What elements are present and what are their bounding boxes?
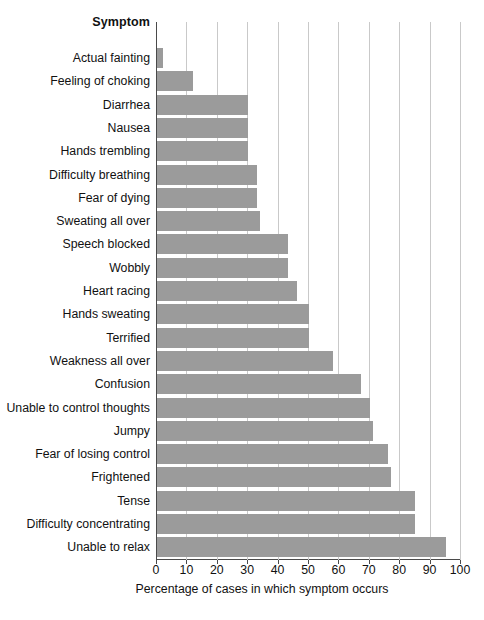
bar xyxy=(157,444,388,464)
category-label: Difficulty concentrating xyxy=(0,517,150,531)
bar xyxy=(157,118,248,138)
category-label: Feeling of choking xyxy=(0,74,150,88)
plot-area xyxy=(156,22,460,560)
category-label: Fear of losing control xyxy=(0,447,150,461)
bar xyxy=(157,281,297,301)
category-label: Wobbly xyxy=(0,261,150,275)
category-label: Frightened xyxy=(0,470,150,484)
bar xyxy=(157,211,260,231)
bar xyxy=(157,71,193,91)
category-label: Heart racing xyxy=(0,284,150,298)
category-label: Fear of dying xyxy=(0,191,150,205)
bar xyxy=(157,537,446,557)
category-label: Sweating all over xyxy=(0,214,150,228)
bar xyxy=(157,328,309,348)
gridline xyxy=(460,22,461,560)
bar xyxy=(157,48,163,68)
bar xyxy=(157,234,288,254)
category-label: Terrified xyxy=(0,331,150,345)
category-label: Speech blocked xyxy=(0,237,150,251)
category-label: Actual fainting xyxy=(0,51,150,65)
category-label: Jumpy xyxy=(0,424,150,438)
x-tick-label: 100 xyxy=(440,563,480,577)
category-label: Weakness all over xyxy=(0,354,150,368)
bar xyxy=(157,188,257,208)
bar xyxy=(157,374,361,394)
bar xyxy=(157,258,288,278)
bar xyxy=(157,304,309,324)
bar xyxy=(157,165,257,185)
bar xyxy=(157,467,391,487)
category-label: Unable to relax xyxy=(0,540,150,554)
category-label: Nausea xyxy=(0,121,150,135)
bar xyxy=(157,351,333,371)
bar xyxy=(157,491,415,511)
category-label: Hands sweating xyxy=(0,307,150,321)
category-label: Confusion xyxy=(0,377,150,391)
symptom-column-header: Symptom xyxy=(0,15,150,29)
bar xyxy=(157,514,415,534)
category-label: Unable to control thoughts xyxy=(0,401,150,415)
category-label: Diarrhea xyxy=(0,98,150,112)
bar-chart: Symptom Actual faintingFeeling of chokin… xyxy=(0,0,484,620)
bar xyxy=(157,398,370,418)
category-label: Difficulty breathing xyxy=(0,168,150,182)
category-label: Hands trembling xyxy=(0,144,150,158)
gridline xyxy=(430,22,431,560)
gridline xyxy=(399,22,400,560)
bar xyxy=(157,95,248,115)
x-axis-title: Percentage of cases in which symptom occ… xyxy=(0,582,484,596)
category-label: Tense xyxy=(0,494,150,508)
bar xyxy=(157,421,373,441)
bar xyxy=(157,141,248,161)
